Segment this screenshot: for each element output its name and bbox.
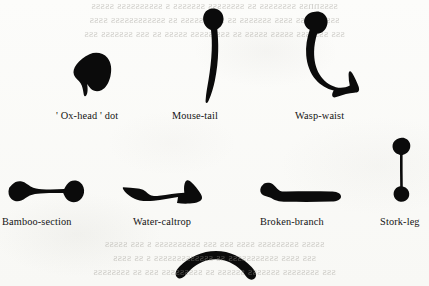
stroke-label-stork-leg: Stork-leg (380, 216, 420, 227)
stork-leg-stroke-icon (391, 137, 413, 205)
stroke-fault-plate: ' Ox-head ' dot Mouse-tail Wasp-waist Ba… (0, 0, 429, 286)
water-caltrop-stroke-icon (122, 178, 208, 206)
arched-bridge-stroke-icon (173, 250, 259, 280)
stroke-label-broken-branch: Broken-branch (260, 216, 324, 227)
stroke-label-wasp-waist: Wasp-waist (295, 110, 344, 121)
stroke-label-water-caltrop: Water-caltrop (133, 216, 191, 227)
ox-head-dot-stroke-icon (72, 52, 120, 102)
stroke-label-ox-head-dot: ' Ox-head ' dot (56, 110, 118, 121)
stroke-label-mouse-tail: Mouse-tail (172, 110, 218, 121)
broken-branch-stroke-icon (258, 180, 342, 204)
mouse-tail-stroke-icon (196, 8, 230, 104)
stroke-label-bamboo-section: Bamboo-section (2, 216, 72, 227)
wasp-waist-stroke-icon (297, 10, 361, 102)
bamboo-section-stroke-icon (8, 178, 88, 204)
